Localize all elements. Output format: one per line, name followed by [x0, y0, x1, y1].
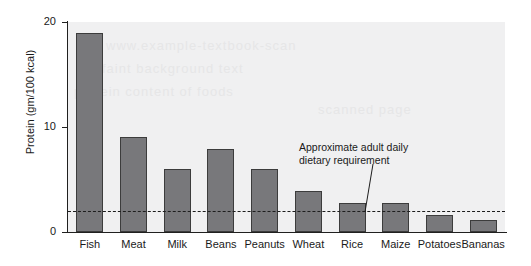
- protein-content-bar-chart: www.example-textbook-scan faint backgrou…: [0, 0, 531, 266]
- y-axis-title: Protein (gm/100 kcal): [24, 22, 36, 182]
- category-label-wheat: Wheat: [287, 238, 331, 250]
- plot-area: www.example-textbook-scan faint backgrou…: [68, 22, 505, 232]
- bar-maize: [382, 203, 409, 232]
- watermark-line-4: scanned page: [318, 102, 412, 117]
- bar-meat: [120, 137, 147, 233]
- bar-fish: [76, 33, 103, 233]
- watermark-line-1: www.example-textbook-scan: [106, 38, 296, 53]
- x-axis-line: [67, 232, 507, 233]
- category-label-beans: Beans: [199, 238, 243, 250]
- bar-bananas: [470, 220, 497, 232]
- watermark-line-2: faint background text: [102, 61, 244, 76]
- dietary-requirement-reference-line: [68, 211, 505, 212]
- y-axis-line: [67, 21, 68, 233]
- category-label-fish: Fish: [68, 238, 112, 250]
- y-tick-mark-20: [62, 22, 67, 23]
- bar-milk: [164, 169, 191, 232]
- category-label-peanuts: Peanuts: [243, 238, 287, 250]
- y-tick-label-0: 0: [30, 225, 56, 237]
- bar-beans: [207, 149, 234, 232]
- y-tick-mark-0: [62, 232, 67, 233]
- bar-potatoes: [426, 215, 453, 232]
- category-label-potatoes: Potatoes: [418, 238, 462, 250]
- y-tick-mark-10: [62, 127, 67, 128]
- category-label-maize: Maize: [374, 238, 418, 250]
- category-label-rice: Rice: [330, 238, 374, 250]
- category-label-bananas: Bananas: [461, 238, 505, 250]
- category-label-meat: Meat: [112, 238, 156, 250]
- annotation-line-1: Approximate adult daily: [299, 141, 408, 154]
- annotation-leader-line: [352, 162, 382, 214]
- category-label-milk: Milk: [155, 238, 199, 250]
- bar-peanuts: [251, 169, 278, 232]
